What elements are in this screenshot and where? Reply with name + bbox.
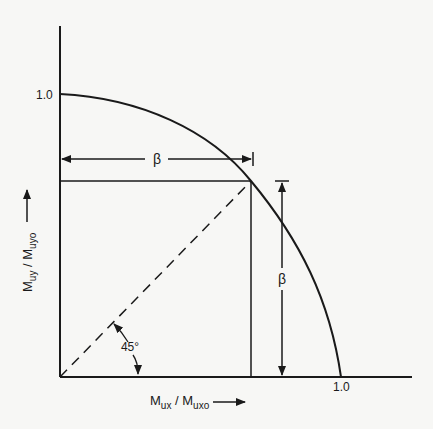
beta-horizontal-label: β — [153, 151, 161, 167]
dashed-45-line — [60, 181, 251, 377]
x-axis-label: Mux / Muxo — [150, 393, 210, 411]
interaction-diagram: β β 45° 1.0 1.0 Mux / Muxo Muy / Muyo — [0, 0, 433, 429]
angle-arc-arrow-lower — [133, 355, 138, 374]
angle-label: 45° — [121, 340, 139, 354]
x-axis-tick-1: 1.0 — [333, 380, 350, 394]
y-axis-tick-1: 1.0 — [36, 88, 53, 102]
y-axis-label: Muy / Muyo — [20, 232, 38, 292]
beta-vertical-label: β — [278, 271, 286, 287]
